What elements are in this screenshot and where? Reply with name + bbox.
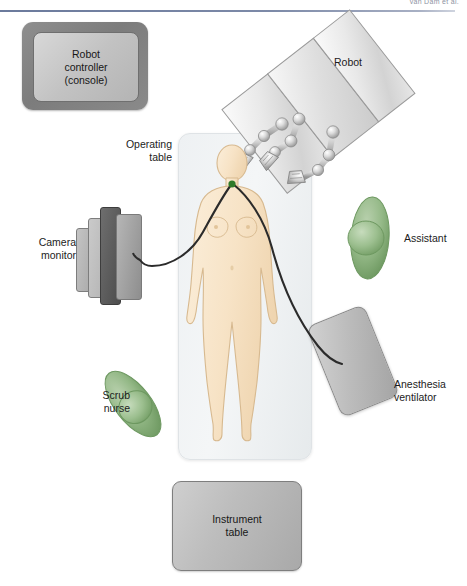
robot-assembly: [222, 10, 415, 193]
diagram-vector-layer: [0, 0, 467, 586]
port-site-marker: [228, 180, 235, 187]
staff-assistant: [348, 196, 392, 280]
patient-figure: [187, 145, 277, 441]
assistant-label: Assistant: [404, 232, 447, 245]
scrub-nurse-label: Scrub nurse: [78, 389, 130, 414]
monitor-lead: [133, 253, 140, 260]
robot-label: Robot: [334, 56, 362, 69]
figure-container: van Dam et al. Robot controller (console…: [0, 0, 467, 586]
